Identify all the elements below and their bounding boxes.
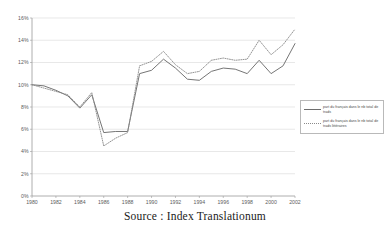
data-series-group (32, 29, 295, 146)
svg-text:1982: 1982 (50, 199, 62, 205)
svg-text:1986: 1986 (98, 199, 110, 205)
source-caption: Source : Index Translationum (0, 210, 390, 222)
svg-text:12%: 12% (18, 59, 29, 65)
svg-text:16%: 16% (18, 15, 29, 21)
svg-text:1990: 1990 (146, 199, 158, 205)
svg-text:1996: 1996 (217, 199, 229, 205)
legend-label-total: part du français dans le nb total de tra… (323, 105, 381, 114)
svg-text:10%: 10% (18, 82, 29, 88)
svg-text:1994: 1994 (194, 199, 206, 205)
svg-text:1998: 1998 (241, 199, 253, 205)
chart-figure: 0%2%4%6%8%10%12%14%16% 19801982198419861… (0, 0, 390, 237)
svg-text:1984: 1984 (74, 199, 86, 205)
legend-swatch-dotted-icon (304, 120, 321, 126)
legend-swatch-solid-icon (304, 106, 321, 112)
svg-text:4%: 4% (21, 148, 29, 154)
gridlines (32, 18, 295, 174)
svg-text:2000: 2000 (265, 199, 277, 205)
x-axis-tick-labels: 1980198219841986198819901992199419961998… (26, 196, 301, 205)
svg-text:1992: 1992 (170, 199, 182, 205)
legend-entry-literary: part du français dans le nb total de tra… (304, 119, 381, 128)
svg-text:14%: 14% (18, 37, 29, 43)
svg-text:8%: 8% (21, 104, 29, 110)
legend-label-literary: part du français dans le nb total de tra… (323, 119, 381, 128)
svg-text:1980: 1980 (26, 199, 38, 205)
legend-entry-total: part du français dans le nb total de tra… (304, 105, 381, 114)
chart-legend: part du français dans le nb total de tra… (300, 100, 384, 134)
svg-text:2002: 2002 (289, 199, 301, 205)
svg-text:2%: 2% (21, 171, 29, 177)
svg-text:1988: 1988 (122, 199, 134, 205)
y-axis-tick-labels: 0%2%4%6%8%10%12%14%16% (18, 15, 32, 199)
svg-text:6%: 6% (21, 126, 29, 132)
